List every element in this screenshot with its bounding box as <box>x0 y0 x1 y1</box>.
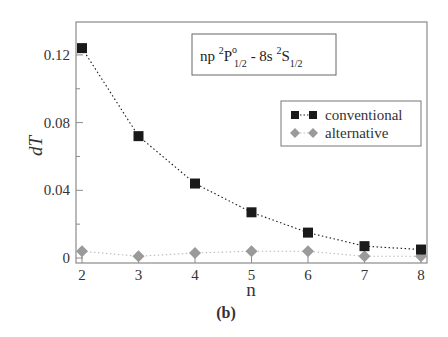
x-tick-label: 6 <box>304 267 312 283</box>
x-axis-label: n <box>246 279 256 300</box>
legend: conventional alternative <box>281 101 421 146</box>
y-tick-label: 0.08 <box>44 115 70 131</box>
y-axis-label: dT <box>25 135 46 157</box>
y-tick-label: 0 <box>63 250 71 266</box>
data-point-alternative <box>76 245 88 257</box>
figure-caption: (b) <box>216 304 236 322</box>
data-point-conventional <box>303 228 313 238</box>
x-tick-label: 2 <box>78 267 86 283</box>
legend-label-conventional: conventional <box>325 107 402 123</box>
series-line-conventional <box>82 48 421 249</box>
chart: 00.040.080.12 2345678 np 2Po1/2 - 8s 2S1… <box>0 0 448 337</box>
y-axis: 00.040.080.12 <box>44 47 83 266</box>
legend-label-alternative: alternative <box>325 125 389 141</box>
data-point-alternative <box>302 245 314 257</box>
y-tick-label: 0.12 <box>44 47 70 63</box>
data-point-conventional <box>77 43 87 53</box>
data-point-alternative <box>359 250 371 262</box>
title-box: np 2Po1/2 - 8s 2S1/2 <box>192 34 336 75</box>
data-point-alternative <box>246 245 258 257</box>
x-tick-label: 8 <box>417 267 425 283</box>
data-point-conventional <box>134 131 144 141</box>
data-point-conventional <box>416 245 426 255</box>
data-point-conventional <box>247 207 257 217</box>
data-point-alternative <box>133 250 145 262</box>
data-point-conventional <box>360 241 370 251</box>
plot-area <box>76 43 427 262</box>
square-marker-icon <box>291 111 299 119</box>
square-marker-icon <box>309 111 317 119</box>
data-point-conventional <box>190 179 200 189</box>
x-tick-label: 3 <box>135 267 143 283</box>
data-point-alternative <box>189 247 201 259</box>
y-tick-label: 0.04 <box>44 182 71 198</box>
x-tick-label: 4 <box>191 267 199 283</box>
x-tick-label: 7 <box>361 267 369 283</box>
